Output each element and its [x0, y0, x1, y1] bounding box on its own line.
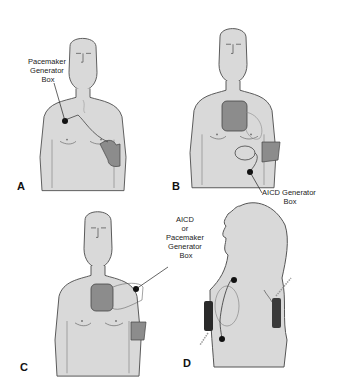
- panel-label-c: C: [20, 361, 28, 373]
- panel-c: AICD or Pacemaker Generator Box C: [20, 212, 206, 376]
- panel-b: AICD Generator Box B: [172, 29, 318, 206]
- panel-d: D: [183, 203, 291, 369]
- callout-aicd-generator-box: AICD Generator Box: [262, 188, 318, 206]
- panel-label-b: B: [172, 180, 180, 192]
- panel-label-d: D: [183, 357, 191, 369]
- panel-label-a: A: [17, 180, 25, 192]
- callout-pacemaker-generator-box: Pacemaker Generator Box: [28, 57, 68, 84]
- callout-aicd-or-pacemaker-box: AICD or Pacemaker Generator Box: [166, 215, 206, 260]
- panel-a: Pacemaker Generator Box A: [17, 38, 126, 192]
